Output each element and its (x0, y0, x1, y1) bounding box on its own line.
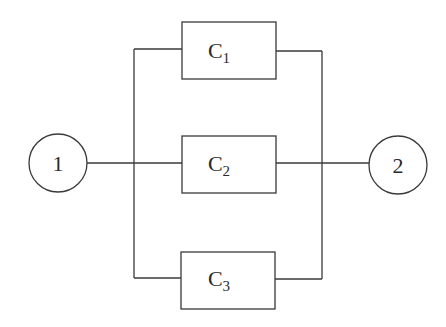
component-c1: C1 (182, 22, 276, 79)
node-1: 1 (29, 134, 87, 192)
component-c3: C3 (181, 252, 275, 309)
component-c3-base: C (208, 266, 223, 291)
component-c1-base: C (208, 38, 223, 63)
node-1-label: 1 (53, 151, 64, 176)
component-c2-subscript: 2 (223, 163, 231, 179)
component-c1-subscript: 1 (223, 50, 231, 66)
component-c3-subscript: 3 (223, 278, 231, 294)
node-2-label: 2 (393, 153, 404, 178)
parallel-network-diagram: 1 2 C1 C2 C3 (0, 0, 446, 327)
node-2: 2 (369, 136, 427, 194)
component-c2: C2 (182, 136, 276, 193)
component-c2-base: C (208, 151, 223, 176)
